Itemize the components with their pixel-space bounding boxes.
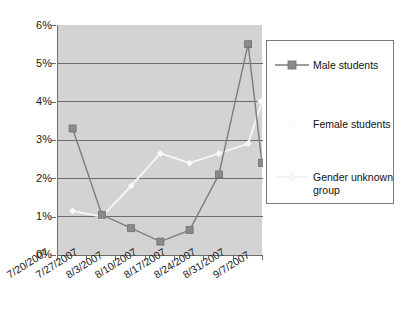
gridlines — [58, 63, 263, 216]
y-tick-label-2: 2% — [0, 173, 52, 184]
y-tick-mark-6 — [50, 25, 56, 26]
legend-marker-diamond-icon — [275, 171, 309, 183]
y-axis: 6% 5% 4% 3% 2% 1% 0% — [0, 0, 52, 280]
legend-label-female-students: Female students — [313, 118, 393, 131]
y-tick-label-5: 5% — [0, 58, 52, 69]
plot-area — [57, 25, 262, 255]
y-tick-mark-2 — [50, 178, 56, 179]
legend: Male students Female students Gender unk… — [266, 40, 394, 204]
y-tick-label-3: 3% — [0, 134, 52, 145]
legend-label-male-students: Male students — [313, 59, 393, 72]
y-tick-mark-1 — [50, 217, 56, 218]
line-chart: 6% 5% 4% 3% 2% 1% 0% — [0, 0, 406, 330]
y-tick-label-4: 4% — [0, 96, 52, 107]
y-tick-mark-5 — [50, 63, 56, 64]
y-tick-mark-4 — [50, 102, 56, 103]
x-axis-labels: 7/20/2007 7/27/2007 8/3/2007 8/10/2007 8… — [0, 255, 290, 330]
y-tick-label-1: 1% — [0, 211, 52, 222]
y-tick-mark-3 — [50, 140, 56, 141]
plot-canvas — [58, 25, 263, 255]
legend-label-gender-unknown-group: Gender unknown group — [313, 171, 393, 196]
series-male-students — [69, 41, 263, 245]
y-tick-label-6: 6% — [0, 20, 52, 31]
legend-marker-blank-icon — [275, 118, 309, 130]
legend-marker-square-icon — [275, 59, 309, 71]
